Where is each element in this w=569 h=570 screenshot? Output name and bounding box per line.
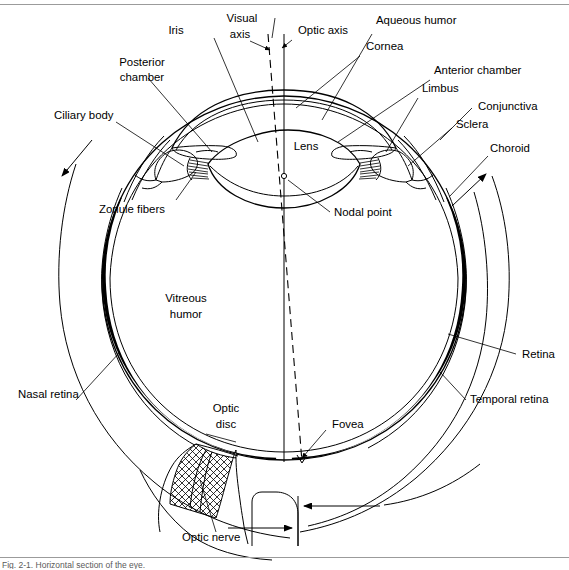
label-vitreous-humor-line2: humor (170, 308, 202, 320)
label-conjunctiva: Conjunctiva (478, 100, 538, 112)
label-sclera: Sclera (456, 118, 489, 130)
leader-anterior-chamber (338, 80, 430, 142)
leader-nasal-retina (76, 352, 120, 400)
ciliary-body-right (332, 146, 434, 189)
label-nasal-retina: Nasal retina (18, 388, 79, 400)
label-lens: Lens (294, 140, 319, 152)
figure-page: Iris Visual axis Optic axis Aqueous humo… (0, 0, 569, 570)
label-vitreous-humor-line1: Vitreous (165, 292, 207, 304)
leader-fovea (302, 430, 326, 458)
label-visual-axis-line1: Visual (227, 12, 258, 24)
leader-retina (448, 334, 516, 354)
label-iris: Iris (168, 24, 183, 36)
label-optic-nerve: Optic nerve (182, 531, 240, 543)
leader-iris (214, 38, 258, 142)
leader-sclera (408, 128, 452, 166)
label-retina: Retina (522, 348, 556, 360)
label-optic-disc-line1: Optic (213, 402, 240, 414)
label-nodal-point: Nodal point (334, 206, 392, 218)
zonule-fibers-right (359, 158, 381, 180)
label-visual-axis-line2: axis (230, 28, 251, 40)
optic-nerve-measure-arrows (228, 464, 480, 546)
nodal-point-marker (281, 173, 286, 178)
label-posterior-chamber-line1: Posterior (119, 56, 165, 68)
leader-lines (76, 18, 516, 532)
figure-caption: Fig. 2-1. Horizontal section of the eye. (2, 560, 562, 569)
label-aqueous-humor: Aqueous humor (376, 14, 457, 26)
label-layer: Iris Visual axis Optic axis Aqueous humo… (18, 12, 556, 543)
label-choroid: Choroid (490, 142, 530, 154)
label-posterior-chamber-line2: chamber (120, 71, 165, 83)
leader-temporal-retina (440, 372, 466, 400)
label-limbus: Limbus (422, 82, 459, 94)
label-temporal-retina: Temporal retina (470, 393, 549, 405)
label-ciliary-body: Ciliary body (54, 109, 114, 121)
eye-cross-section-diagram: Iris Visual axis Optic axis Aqueous humo… (0, 0, 569, 570)
ciliary-body-left (134, 146, 236, 189)
visual-axis-line (268, 34, 302, 462)
leader-cornea (296, 56, 360, 108)
label-cornea: Cornea (366, 40, 404, 52)
label-zonule-fibers: Zonule fibers (99, 203, 165, 215)
leader-visual-axis (250, 41, 270, 50)
zonule-fibers-left (187, 158, 209, 180)
label-optic-disc-line2: disc (216, 418, 237, 430)
leader-zonule-fibers (176, 172, 196, 200)
label-anterior-chamber: Anterior chamber (434, 64, 522, 76)
label-fovea: Fovea (332, 418, 364, 430)
bottom-divider-rule (0, 557, 569, 558)
label-optic-axis: Optic axis (298, 24, 348, 36)
